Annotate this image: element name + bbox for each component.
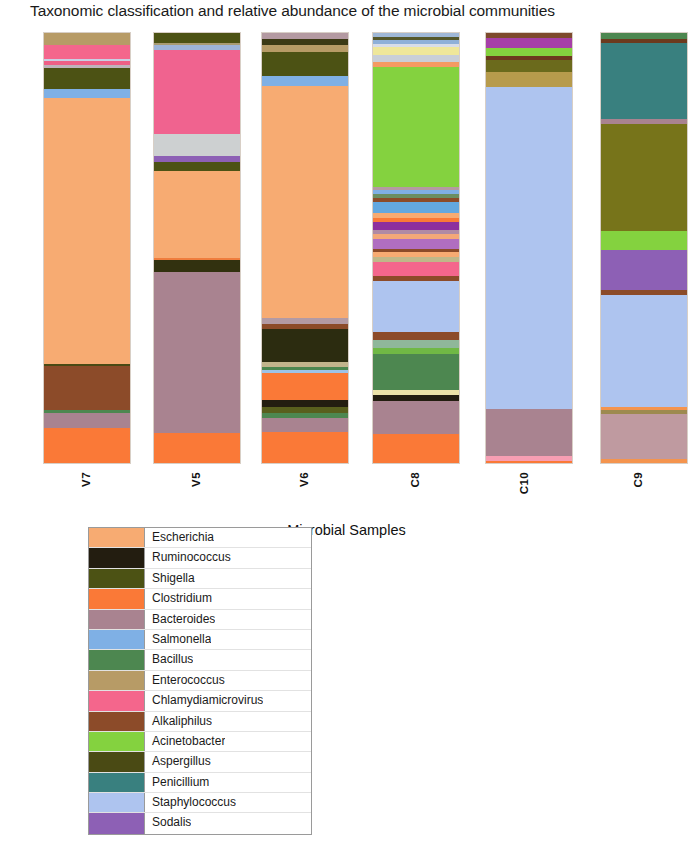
x-tick-label-v6: V6 <box>298 472 310 487</box>
bar-segment <box>154 171 240 257</box>
legend-label: Salmonella <box>145 630 211 649</box>
bar-segment <box>154 272 240 433</box>
legend-label: Penicillium <box>145 773 209 792</box>
legend-row[interactable]: Escherichia <box>89 528 311 548</box>
bar-segment <box>262 86 348 319</box>
legend-row[interactable]: Enterococcus <box>89 671 311 691</box>
legend-label: Clostridium <box>145 589 212 608</box>
bar-group-c10[interactable] <box>485 32 573 464</box>
bar-segment <box>373 401 459 434</box>
bar-segment <box>486 60 572 72</box>
legend-label: Staphylococcus <box>145 793 236 812</box>
legend-label: Bacillus <box>145 650 193 669</box>
legend-label: Sodalis <box>145 813 191 833</box>
bar-segment <box>262 76 348 85</box>
legend-swatch <box>89 732 145 751</box>
bar-segment <box>601 43 687 119</box>
legend-swatch <box>89 752 145 771</box>
bar-segment <box>44 366 130 410</box>
legend-row[interactable]: Acinetobacter <box>89 732 311 752</box>
bar-segment <box>601 231 687 250</box>
legend-swatch <box>89 793 145 812</box>
legend-swatch <box>89 548 145 567</box>
legend-row[interactable]: Clostridium <box>89 589 311 609</box>
bar-segment <box>154 33 240 43</box>
legend-label: Escherichia <box>145 528 214 547</box>
bar-stack[interactable] <box>153 32 241 464</box>
legend-row[interactable]: Alkaliphilus <box>89 712 311 732</box>
bar-group-v5[interactable] <box>153 32 241 464</box>
legend-label: Ruminococcus <box>145 548 231 567</box>
bar-group-v7[interactable] <box>43 32 131 464</box>
legend-row[interactable]: Sodalis <box>89 813 311 833</box>
bar-stack[interactable] <box>485 32 573 464</box>
bar-segment <box>154 162 240 172</box>
bar-segment <box>44 45 130 59</box>
bar-segment <box>44 89 130 98</box>
legend-swatch <box>89 610 145 629</box>
legend-swatch <box>89 691 145 710</box>
x-tick-label-c8: C8 <box>409 472 421 488</box>
legend-label: Enterococcus <box>145 671 225 690</box>
legend-swatch <box>89 712 145 731</box>
bar-segment <box>486 461 572 463</box>
legend-row[interactable]: Penicillium <box>89 773 311 793</box>
bar-segment <box>44 413 130 428</box>
legend-row[interactable]: Aspergillus <box>89 752 311 772</box>
bar-segment <box>486 409 572 456</box>
bar-segment <box>486 38 572 48</box>
legend-row[interactable]: Salmonella <box>89 630 311 650</box>
bar-segment <box>373 332 459 340</box>
chart-legend: EscherichiaRuminococcusShigellaClostridi… <box>88 527 312 835</box>
bar-stack[interactable] <box>43 32 131 464</box>
bar-stack[interactable] <box>600 32 688 464</box>
legend-swatch <box>89 528 145 547</box>
bar-segment <box>373 340 459 348</box>
bar-stack[interactable] <box>372 32 460 464</box>
legend-swatch <box>89 569 145 588</box>
bar-segment <box>44 68 130 90</box>
legend-label: Alkaliphilus <box>145 712 212 731</box>
chart-title: Taxonomic classification and relative ab… <box>30 2 693 20</box>
legend-row[interactable]: Bacillus <box>89 650 311 670</box>
bar-segment <box>373 239 459 248</box>
bar-segment <box>373 281 459 332</box>
legend-row[interactable]: Chlamydiamicrovirus <box>89 691 311 711</box>
bar-group-c8[interactable] <box>372 32 460 464</box>
bar-group-v6[interactable] <box>261 32 349 464</box>
bar-segment <box>262 418 348 432</box>
bar-segment <box>44 428 130 463</box>
legend-row[interactable]: Shigella <box>89 569 311 589</box>
bar-segment <box>486 72 572 87</box>
legend-swatch <box>89 773 145 792</box>
bar-segment <box>601 250 687 290</box>
bar-segment <box>262 45 348 52</box>
bar-segment <box>601 124 687 232</box>
bar-segment <box>486 87 572 409</box>
bar-segment <box>262 400 348 407</box>
bar-segment <box>486 48 572 56</box>
x-tick-label-c9: C9 <box>632 472 644 488</box>
legend-swatch <box>89 671 145 690</box>
bar-segment <box>373 222 459 230</box>
bar-segment <box>262 329 348 362</box>
bar-segment <box>373 67 459 186</box>
plot-area: Relative Percentage Microbial Samples V7… <box>0 32 693 464</box>
legend-row[interactable]: Staphylococcus <box>89 793 311 813</box>
bar-segment <box>154 134 240 156</box>
x-tick-label-v7: V7 <box>80 472 92 487</box>
legend-swatch <box>89 630 145 649</box>
bar-group-c9[interactable] <box>600 32 688 464</box>
bar-segment <box>601 414 687 459</box>
legend-row[interactable]: Bacteroides <box>89 610 311 630</box>
x-tick-label-v5: V5 <box>190 472 202 487</box>
bar-segment <box>262 373 348 400</box>
legend-label: Bacteroides <box>145 610 215 629</box>
x-tick-label-c10: C10 <box>518 472 530 494</box>
legend-label: Aspergillus <box>145 752 211 771</box>
bar-segment <box>154 50 240 134</box>
bar-segment <box>154 260 240 271</box>
legend-label: Shigella <box>145 569 195 588</box>
legend-row[interactable]: Ruminococcus <box>89 548 311 568</box>
bar-stack[interactable] <box>261 32 349 464</box>
